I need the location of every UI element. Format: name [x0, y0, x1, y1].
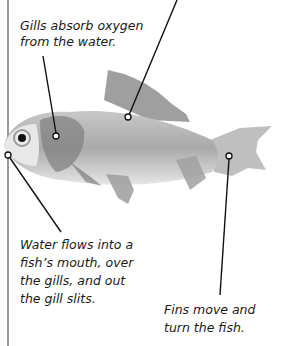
water-caption-line: the gill slits.: [20, 290, 133, 308]
fins-caption: Fins move and turn the fish.: [164, 301, 255, 337]
gills-caption-line: from the water.: [20, 34, 143, 50]
tail-fin: [210, 126, 272, 176]
water-caption-line: the gills, and out: [20, 272, 133, 290]
water-caption-line: Water flows into a: [20, 236, 133, 254]
water-caption-line: fish’s mouth, over: [20, 254, 133, 272]
fins-caption-line: Fins move and: [164, 301, 255, 319]
fins-caption-line: turn the fish.: [164, 319, 255, 337]
water-caption: Water flows into a fish’s mouth, over th…: [20, 236, 133, 308]
gills-caption: Gills absorb oxygen from the water.: [20, 18, 143, 50]
gills-caption-line: Gills absorb oxygen: [20, 18, 143, 34]
